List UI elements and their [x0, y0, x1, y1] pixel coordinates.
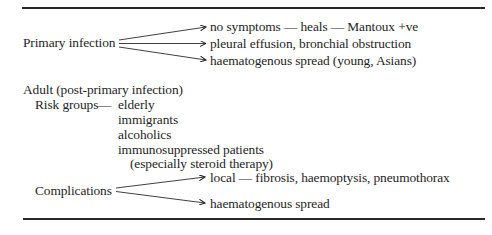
arrow-icon [116, 192, 205, 204]
complications-label: Complications [35, 183, 112, 198]
complication-branch-haematogenous: haematogenous spread [210, 196, 330, 211]
arrow-icon [119, 47, 206, 60]
primary-branch-haematogenous: haematogenous spread (young, Asians) [210, 53, 416, 68]
risk-groups-dash: — [98, 97, 111, 112]
arrow-icon [116, 177, 205, 188]
primary-branch-no-symptoms: no symptoms — heals — Mantoux +ve [210, 19, 418, 34]
arrow-icon [119, 27, 206, 40]
risk-item-elderly: elderly [118, 97, 154, 112]
primary-branch-pleural-effusion: pleural effusion, bronchial obstruction [210, 36, 411, 51]
complication-arrows [116, 177, 205, 203]
risk-item-immunosuppressed: immunosuppressed patients [118, 142, 264, 157]
primary-infection-label: Primary infection [23, 35, 115, 50]
risk-item-alcoholics: alcoholics [118, 127, 171, 142]
complication-branch-local: local — fibrosis, haemoptysis, pneumotho… [210, 170, 450, 185]
risk-item-steroid-note: (especially steroid therapy) [130, 156, 273, 171]
risk-groups-label: Risk groups [35, 97, 98, 112]
primary-arrows [119, 27, 206, 60]
adult-heading: Adult (post-primary infection) [23, 82, 183, 97]
top-rule [22, 7, 485, 9]
bottom-rule [23, 218, 485, 220]
risk-item-immigrants: immigrants [118, 112, 178, 127]
